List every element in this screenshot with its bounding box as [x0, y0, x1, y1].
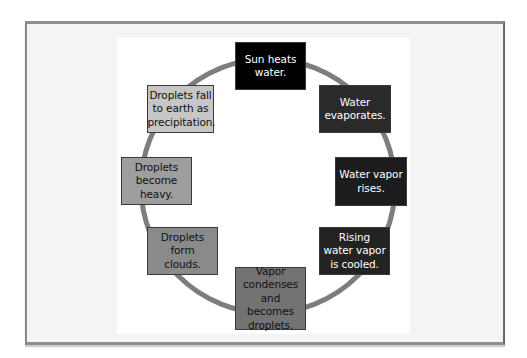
step-label: Rising water vapor is cooled. [323, 231, 386, 272]
step-water-evaporates: Water evaporates. [319, 85, 391, 133]
step-vapor-condenses: Vapor condenses and becomes droplets. [235, 267, 306, 330]
step-droplets-form-clouds: Droplets form clouds. [147, 227, 218, 275]
step-label: Sun heats water. [245, 53, 297, 80]
step-sun-heats-water: Sun heats water. [235, 42, 306, 90]
step-rising-vapor-cooled: Rising water vapor is cooled. [319, 227, 390, 275]
step-label: Vapor condenses and becomes droplets. [239, 265, 302, 333]
step-droplets-become-heavy: Droplets become heavy. [121, 157, 192, 205]
step-label: Water vapor rises. [339, 168, 403, 195]
step-water-vapor-rises: Water vapor rises. [335, 157, 407, 206]
step-droplets-fall-precipitation: Droplets fall to earth as precipitation. [147, 85, 214, 133]
step-label: Droplets form clouds. [151, 231, 214, 272]
step-label: Water evaporates. [323, 96, 387, 123]
step-label: Droplets become heavy. [129, 161, 185, 202]
step-label: Droplets fall to earth as precipitation. [148, 89, 214, 130]
